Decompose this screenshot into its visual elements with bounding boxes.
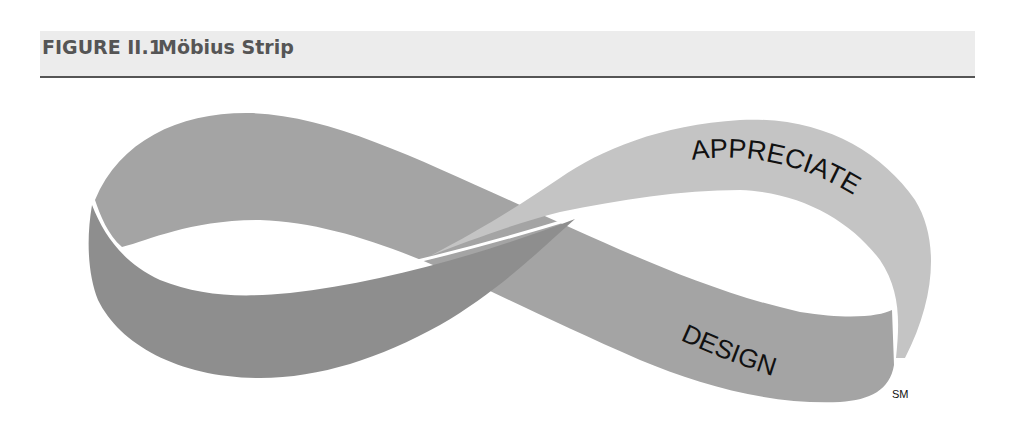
mobius-strip-diagram: APPRECIATE DESIGN SM	[0, 0, 1010, 427]
service-mark: SM	[892, 388, 909, 400]
